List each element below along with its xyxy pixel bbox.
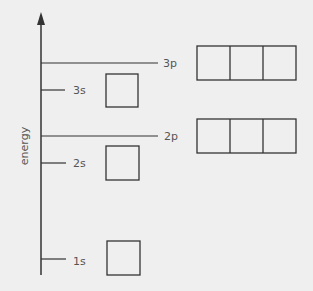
orbital-box-group	[197, 46, 296, 80]
level-label: 3p	[163, 57, 177, 70]
arrow-up-icon	[37, 12, 45, 25]
axis-label: energy	[18, 126, 31, 165]
energy-level-diagram: energy 3p 3s 2p 2s 1s	[0, 0, 313, 291]
level-2s: 2s	[41, 146, 139, 180]
level-label: 2s	[73, 157, 86, 170]
level-label: 3s	[73, 84, 86, 97]
level-label: 2p	[164, 130, 178, 143]
level-2p: 2p	[41, 119, 296, 153]
orbital-box	[106, 74, 138, 107]
level-3s: 3s	[41, 74, 138, 107]
level-label: 1s	[73, 255, 86, 268]
orbital-box	[107, 241, 140, 275]
orbital-box	[106, 146, 139, 180]
level-1s: 1s	[41, 241, 140, 275]
level-3p: 3p	[41, 46, 296, 80]
orbital-box-group	[197, 119, 296, 153]
